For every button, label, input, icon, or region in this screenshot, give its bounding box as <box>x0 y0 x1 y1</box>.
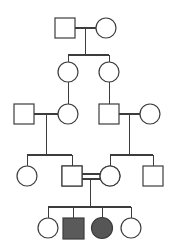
symbol-V-4-female-unaffected[interactable] <box>121 218 141 238</box>
symbol-III-3-male-unaffected[interactable] <box>99 104 119 124</box>
symbol-III-2-female-unaffected[interactable] <box>58 104 78 124</box>
symbol-IV-3-female-carrier[interactable] <box>100 166 120 186</box>
symbol-III-4-female-unaffected[interactable] <box>140 104 160 124</box>
pedigree-chart <box>0 0 181 252</box>
generation-II-group <box>58 62 119 104</box>
symbol-IV-4-male-unaffected[interactable] <box>143 166 163 186</box>
symbol-V-3-female-affected[interactable] <box>92 218 113 239</box>
symbol-II-2-female-unaffected[interactable] <box>99 62 119 82</box>
symbol-III-1-male-unaffected[interactable] <box>14 104 34 124</box>
generation-IV-group <box>17 166 163 218</box>
symbol-V-2-male-affected[interactable] <box>63 218 84 239</box>
generation-I-group <box>55 18 116 62</box>
symbol-V-1-female-unaffected[interactable] <box>38 218 58 238</box>
pedigree-canvas <box>0 0 181 252</box>
symbol-I-2-female-unaffected[interactable] <box>96 18 116 38</box>
symbol-I-1-male-unaffected[interactable] <box>55 18 75 38</box>
generation-III-group <box>14 104 160 166</box>
generation-V-group <box>38 218 141 240</box>
symbol-IV-3-outline-top <box>100 166 120 186</box>
symbol-IV-2-outline-top <box>62 166 82 186</box>
symbol-IV-2-male-carrier[interactable] <box>62 166 82 186</box>
symbol-II-1-female-unaffected[interactable] <box>58 62 78 82</box>
symbol-IV-1-female-unaffected[interactable] <box>17 166 37 186</box>
